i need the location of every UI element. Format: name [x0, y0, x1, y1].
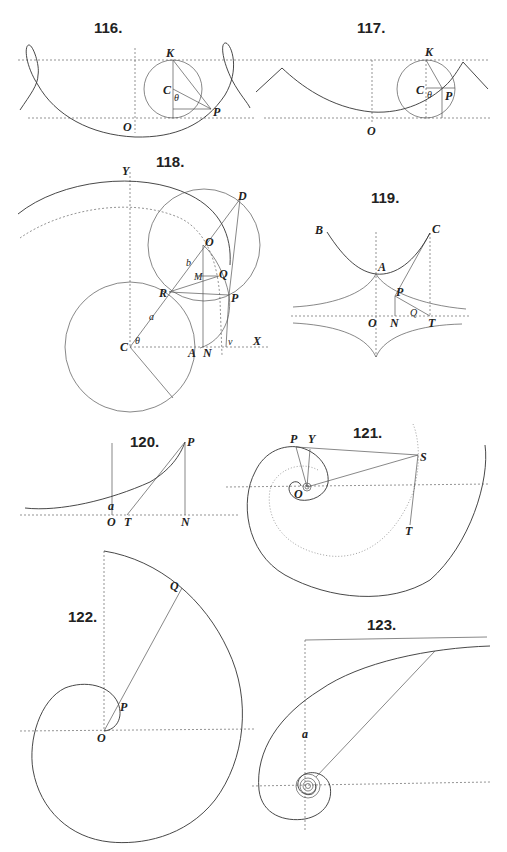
- figure-119: 119. B C A P Q O N T: [291, 189, 469, 357]
- label-theta: θ: [427, 89, 432, 100]
- st-line: [410, 455, 418, 525]
- figure-plate: 116. K C θ P O 117. K C θ P O 118.: [0, 0, 507, 852]
- label-o: O: [205, 235, 214, 249]
- label-d: D: [237, 189, 247, 203]
- archimedean-spiral: [32, 551, 243, 843]
- label-b: b: [186, 257, 191, 268]
- label-y: Y: [308, 432, 317, 446]
- label-m: M: [193, 271, 203, 282]
- label-b: B: [314, 223, 323, 237]
- upper-tractrix: [293, 274, 466, 309]
- label-n: N: [202, 346, 213, 360]
- label-p: P: [213, 105, 221, 119]
- os-line: [307, 455, 418, 487]
- label-p: P: [445, 89, 453, 103]
- figure-number: 121.: [353, 424, 382, 441]
- figure-123: 123. a: [252, 616, 490, 832]
- label-a-point: A: [187, 346, 196, 360]
- outer-spiral: [247, 445, 486, 596]
- label-o: O: [107, 515, 116, 529]
- figure-number: 120.: [130, 433, 159, 450]
- label-a: a: [302, 727, 308, 741]
- oq-line: [104, 588, 182, 731]
- label-t: T: [124, 515, 132, 529]
- label-n: N: [180, 515, 191, 529]
- label-q: Q: [170, 579, 179, 593]
- label-k: K: [165, 46, 175, 60]
- label-o: O: [368, 316, 377, 330]
- label-p: P: [187, 435, 195, 449]
- figure-120: 120. P a O T N: [20, 433, 238, 529]
- label-nu: ν: [228, 336, 233, 347]
- tangent-line: [127, 442, 185, 515]
- figure-118: 118. Y D O b M Q R P a C θ A N ν X: [18, 153, 268, 412]
- spiral-coil-4: [306, 784, 311, 789]
- dotted-spiral: [269, 466, 415, 556]
- rolling-circle: [148, 189, 260, 301]
- figure-121: 121. P Y S O T: [226, 424, 490, 596]
- label-p: P: [120, 700, 128, 714]
- horizontal-axis: [20, 729, 255, 731]
- label-y: Y: [122, 164, 131, 178]
- figure-116: 116. K C θ P O: [18, 19, 262, 137]
- label-q: Q: [219, 267, 228, 281]
- label-c: C: [120, 340, 129, 354]
- label-c: C: [432, 222, 441, 236]
- spiral-coil-2: [300, 778, 316, 794]
- radius-vector: [316, 651, 435, 777]
- label-p: P: [290, 432, 298, 446]
- label-a: a: [149, 311, 154, 322]
- spiral-coil-3: [303, 781, 313, 791]
- lower-tractrix: [293, 323, 462, 357]
- catenary-curve: [25, 442, 185, 509]
- outer-epicycloid-arc: [18, 181, 230, 265]
- label-theta: θ: [135, 335, 140, 346]
- label-p: P: [231, 291, 239, 305]
- figure-117: 117. K C θ P O: [256, 19, 492, 138]
- label-n: N: [389, 316, 400, 330]
- figure-number: 118.: [156, 153, 184, 170]
- figure-number: 119.: [371, 189, 399, 206]
- figure-122: 122. Q P O: [20, 551, 255, 843]
- horizontal-axis: [226, 484, 490, 487]
- label-o: O: [97, 731, 106, 745]
- hyperbolic-spiral: [259, 646, 490, 820]
- label-o: O: [294, 487, 303, 501]
- label-q: Q: [410, 307, 418, 318]
- label-x: X: [252, 334, 262, 348]
- horizontal-axis: [252, 782, 490, 786]
- label-k: K: [424, 45, 434, 59]
- label-c: C: [163, 83, 172, 97]
- label-a: a: [108, 499, 114, 513]
- radius-line: [130, 347, 173, 398]
- oy-line: [307, 449, 310, 487]
- label-o: O: [367, 124, 376, 138]
- label-t: T: [428, 316, 436, 330]
- dotted-epicycloid-arc: [20, 207, 222, 355]
- label-r: R: [158, 286, 167, 300]
- label-s: S: [420, 450, 427, 464]
- label-p: P: [396, 285, 404, 299]
- label-t: T: [405, 524, 413, 538]
- label-a: A: [377, 260, 386, 274]
- label-c: C: [416, 83, 425, 97]
- op-line: [296, 447, 307, 487]
- label-o: O: [123, 120, 132, 134]
- asymptote-line: [305, 637, 487, 640]
- figure-number: 116.: [94, 19, 122, 36]
- figure-number: 123.: [367, 616, 396, 633]
- label-theta: θ: [174, 92, 179, 103]
- figure-number: 117.: [357, 19, 385, 36]
- figure-number: 122.: [68, 608, 97, 625]
- dp-line: [229, 199, 240, 295]
- kp-line: [426, 60, 442, 88]
